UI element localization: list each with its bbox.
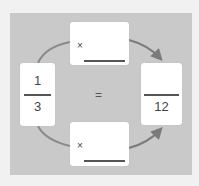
bottom-multiplier-card[interactable]: ×: [70, 122, 129, 166]
right-numerator-blank[interactable]: [141, 73, 182, 88]
bottom-arrow: [129, 130, 160, 148]
times-icon: ×: [77, 40, 83, 51]
top-arrow: [129, 40, 160, 58]
left-fraction-card: 1 3: [20, 63, 55, 126]
left-numerator: 1: [20, 73, 55, 88]
times-icon: ×: [77, 140, 83, 151]
right-fraction-card: 12: [141, 63, 182, 125]
right-denominator: 12: [141, 99, 182, 114]
top-multiplier-blank[interactable]: [84, 60, 125, 62]
equals-sign: =: [95, 88, 102, 102]
bottom-multiplier-blank[interactable]: [84, 160, 125, 162]
left-denominator: 3: [20, 99, 55, 114]
right-fraction-bar: [144, 94, 179, 96]
left-fraction-bar: [24, 94, 51, 96]
top-arc-left: [38, 42, 70, 63]
bottom-arc-left: [38, 126, 70, 146]
top-multiplier-card[interactable]: ×: [70, 22, 129, 65]
